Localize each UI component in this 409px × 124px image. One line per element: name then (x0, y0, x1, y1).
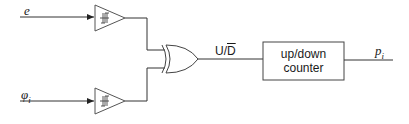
label-u-d-bar: U/D (215, 45, 236, 57)
label-e: e (24, 4, 30, 17)
hysteresis-icon (100, 13, 109, 23)
xor-gate (162, 45, 198, 73)
wire-bottom-to-xor (125, 68, 165, 101)
diagram-canvas (0, 0, 409, 124)
label-p-i: pi (375, 44, 384, 61)
counter-label-line1: up/down (281, 47, 326, 61)
label-phi-subscript: i (28, 95, 31, 105)
label-p-subscript: i (382, 51, 385, 61)
label-u-prefix: U/ (215, 44, 227, 58)
label-e-text: e (24, 3, 30, 18)
buffer-top (95, 5, 125, 31)
counter-label: up/down counter (263, 42, 344, 80)
label-phi-i: φi (21, 88, 31, 105)
counter-label-line2: counter (283, 61, 323, 75)
hysteresis-icon (100, 96, 109, 106)
buffer-bottom (95, 88, 125, 114)
wire-top-to-xor (125, 18, 165, 50)
label-d-overlined: D (227, 44, 236, 58)
